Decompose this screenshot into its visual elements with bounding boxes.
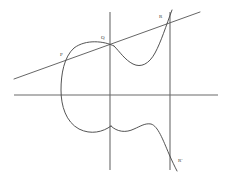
figure-canvas [0,0,228,177]
oval-component [61,42,114,133]
point-label-q: Q [101,35,105,40]
upper-branch [114,10,172,66]
secant-line [14,12,200,79]
point-label-r: R [159,14,163,19]
point-label-r-prime: R' [178,158,183,163]
elliptic-curve-figure: P Q R R' [0,0,228,177]
point-label-p: P [60,52,63,57]
lower-branch [111,124,177,171]
